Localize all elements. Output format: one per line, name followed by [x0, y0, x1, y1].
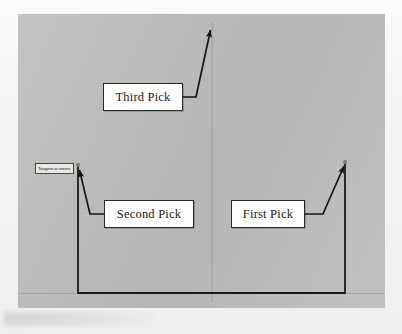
scan-artifact — [4, 312, 154, 326]
callout-second-pick-label: Second Pick — [117, 207, 181, 222]
callout-third-pick[interactable]: Third Pick — [103, 83, 183, 111]
leader-line-first-pick — [305, 166, 344, 214]
vertex-marker-end — [343, 160, 347, 164]
callout-second-pick[interactable]: Second Pick — [104, 200, 194, 228]
vertex-marker-start — [76, 163, 80, 167]
callout-first-pick[interactable]: First Pick — [231, 200, 305, 228]
leader-line-second-pick — [80, 170, 105, 214]
snap-tooltip: Tangent at vertex — [35, 163, 74, 174]
figure-container: Tangent at vertex Third Pick Second Pick… — [0, 0, 402, 334]
leader-line-third-pick — [183, 30, 211, 97]
callout-first-pick-label: First Pick — [243, 207, 293, 222]
snap-tooltip-label: Tangent at vertex — [38, 166, 70, 171]
callout-third-pick-label: Third Pick — [115, 90, 170, 105]
